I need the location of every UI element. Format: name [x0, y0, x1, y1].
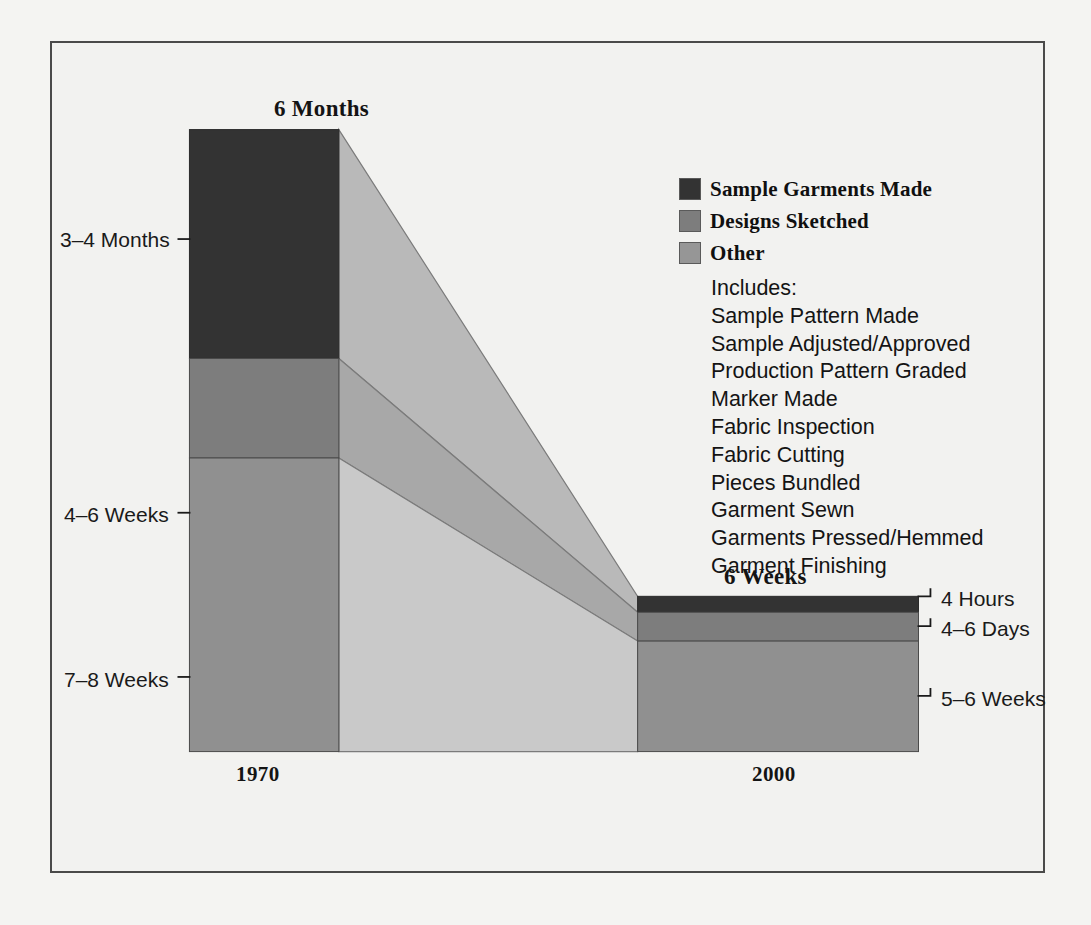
right-axis-ticks: [918, 588, 931, 695]
legend-item-label: Sample Garments Made: [710, 177, 932, 202]
includes-item: Garment Finishing: [711, 553, 1041, 581]
left-axis-label-3: 7–8 Weeks: [64, 668, 169, 692]
legend-item-other[interactable]: Other: [679, 238, 1019, 268]
right-axis-label-2: 4–6 Days: [941, 617, 1030, 641]
includes-heading: Includes:: [711, 275, 1041, 303]
includes-item: Marker Made: [711, 386, 1041, 414]
left-axis-label-1: 3–4 Months: [60, 228, 170, 252]
right-tick-3: [918, 688, 931, 696]
includes-annotation: Includes: Sample Pattern Made Sample Adj…: [711, 275, 1041, 581]
includes-item: Fabric Inspection: [711, 414, 1041, 442]
includes-item: Sample Adjusted/Approved: [711, 331, 1041, 359]
legend-item-label: Other: [710, 241, 765, 266]
legend-swatch-icon: [679, 178, 701, 200]
bar-1970[interactable]: [189, 130, 338, 752]
includes-item: Garment Sewn: [711, 497, 1041, 525]
bar-1970-segment-other[interactable]: [189, 458, 338, 752]
left-axis-label-2: 4–6 Weeks: [64, 503, 169, 527]
includes-item: Fabric Cutting: [711, 442, 1041, 470]
legend-swatch-icon: [679, 210, 701, 232]
chart-legend: Sample Garments Made Designs Sketched Ot…: [679, 174, 1019, 270]
includes-item: Sample Pattern Made: [711, 303, 1041, 331]
bar-2000-segment-sample-garments[interactable]: [638, 596, 919, 612]
x-axis-label-1970: 1970: [236, 762, 280, 787]
x-axis-label-2000: 2000: [752, 762, 796, 787]
bar-2000-segment-other[interactable]: [638, 641, 919, 751]
includes-item: Garments Pressed/Hemmed: [711, 525, 1041, 553]
includes-item: Pieces Bundled: [711, 470, 1041, 498]
legend-item-label: Designs Sketched: [710, 209, 869, 234]
legend-swatch-icon: [679, 242, 701, 264]
bar-2000[interactable]: [638, 596, 919, 751]
left-axis-ticks: [177, 239, 190, 677]
bar-1970-segment-designs-sketched[interactable]: [189, 358, 338, 458]
legend-item-sample-garments-made[interactable]: Sample Garments Made: [679, 174, 1019, 204]
legend-item-designs-sketched[interactable]: Designs Sketched: [679, 206, 1019, 236]
right-axis-label-1: 4 Hours: [941, 587, 1015, 611]
bar-1970-segment-sample-garments[interactable]: [189, 130, 338, 359]
right-axis-label-3: 5–6 Weeks: [941, 687, 1046, 711]
connector-ribbons: [339, 130, 638, 752]
bar-1970-total-label: 6 Months: [274, 96, 369, 122]
right-tick-2: [918, 618, 931, 626]
figure-frame: 6 Months 6 Weeks 1970 2000 3–4 Months 4–…: [50, 41, 1045, 873]
right-tick-1: [918, 588, 931, 596]
includes-item: Production Pattern Graded: [711, 358, 1041, 386]
bar-2000-segment-designs-sketched[interactable]: [638, 612, 919, 641]
